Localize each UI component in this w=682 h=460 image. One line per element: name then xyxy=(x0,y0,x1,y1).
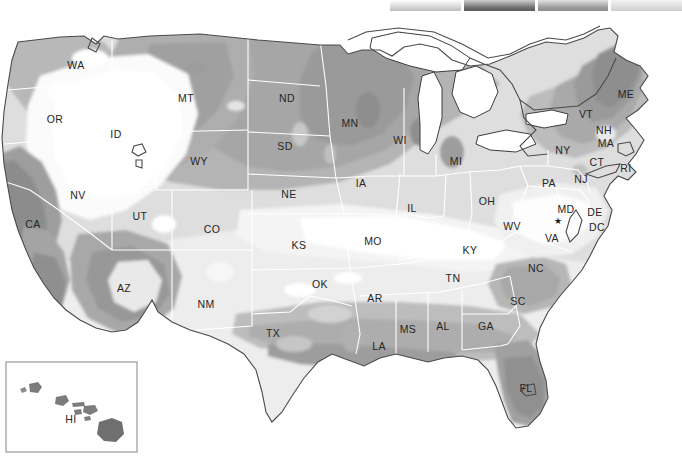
speckle-tx-1 xyxy=(308,305,352,323)
hawaii-inset[interactable] xyxy=(6,362,137,452)
capital-star-marker: ★ xyxy=(554,216,562,226)
map-figure: ★ WAORIDMTWYNVCAUTCOAZNMNDSDNEKSOKTXMNIA… xyxy=(0,0,682,460)
legend-swatch-1 xyxy=(390,0,461,11)
speckle-id-1 xyxy=(82,124,110,144)
speckle-mn-1 xyxy=(356,92,380,128)
legend-swatch-3 xyxy=(538,0,609,11)
legend-gradient-strip xyxy=(390,0,682,11)
speckle-tx-2 xyxy=(276,336,312,352)
speckle-wy-1 xyxy=(227,101,245,111)
island-lanai xyxy=(74,409,82,415)
us-map[interactable]: ★ WAORIDMTWYNVCAUTCOAZNMNDSDNEKSOKTXMNIA… xyxy=(0,14,682,460)
speckle-nm-1 xyxy=(206,262,234,282)
speckle-wa-1 xyxy=(72,49,108,67)
speckle-ma-1 xyxy=(596,126,616,142)
legend-swatch-4 xyxy=(611,0,682,11)
speckle-ok-1 xyxy=(284,283,316,297)
speckle-sd-2 xyxy=(324,144,336,164)
speckle-mt-1 xyxy=(184,62,208,74)
speckle-mi-1 xyxy=(440,136,464,168)
speckle-ar-1 xyxy=(334,272,362,284)
legend-swatch-2 xyxy=(464,0,535,11)
